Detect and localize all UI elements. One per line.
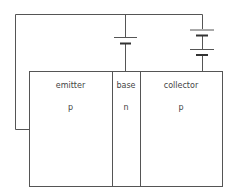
base-label: base	[112, 81, 140, 91]
emitter-base-battery	[114, 38, 137, 44]
emitter-doping: p	[29, 103, 112, 113]
collector-doping: p	[140, 103, 222, 113]
collector-label: collector	[140, 81, 222, 91]
emitter-label: emitter	[29, 81, 112, 91]
circuit-diagram	[0, 0, 234, 193]
base-doping: n	[112, 103, 140, 113]
